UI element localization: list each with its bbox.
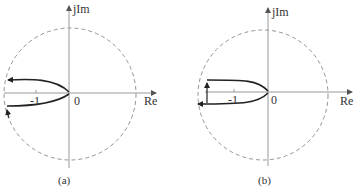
nyquist-upper-branch-a bbox=[8, 79, 69, 92]
y-axis-label-b: jIm bbox=[271, 5, 289, 19]
panel-b: jIm Re 0 -1 (b) bbox=[198, 5, 353, 187]
origin-label-a: 0 bbox=[74, 94, 80, 108]
panel-a: jIm Re 0 -1 (a) bbox=[4, 2, 157, 187]
x-axis-label-a: Re bbox=[144, 94, 157, 108]
nyquist-upper-branch-b bbox=[207, 80, 268, 91]
origin-label-b: 0 bbox=[271, 93, 277, 107]
x-axis-label-b: Re bbox=[340, 94, 353, 108]
caption-a: (a) bbox=[58, 174, 71, 187]
nyquist-figure: jIm Re 0 -1 (a) jIm Re 0 -1 (b) bbox=[0, 0, 357, 190]
tick-label-minus1-b: -1 bbox=[228, 93, 238, 107]
tick-label-minus1-a: -1 bbox=[30, 94, 40, 108]
y-axis-label-a: jIm bbox=[72, 2, 90, 16]
unit-circle-a bbox=[4, 28, 136, 160]
unit-circle-b bbox=[198, 30, 328, 160]
caption-b: (b) bbox=[258, 174, 271, 187]
